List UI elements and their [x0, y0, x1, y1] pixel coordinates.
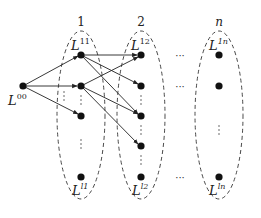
column-header-1: 1: [77, 15, 85, 29]
label-source: L00: [7, 92, 27, 108]
label-col-1-top: L11: [70, 37, 90, 53]
horizontal-ellipsis-row-2: ···: [175, 81, 185, 92]
label-col-1-bottom: Ll1: [71, 182, 88, 198]
layered-graph-diagram: 1 2 n: [0, 0, 261, 218]
label-col-n-bottom: Lln: [208, 182, 225, 198]
column-header-n: n: [215, 15, 223, 29]
edges-source: [23, 56, 78, 114]
label-col-2-top: L12: [130, 37, 150, 53]
node-source: [19, 82, 26, 89]
edges-layer-1-2: [81, 55, 138, 144]
nodes-col-1: [77, 51, 84, 180]
nodes-col-2: [137, 51, 144, 180]
nodes-col-n: [215, 51, 222, 180]
label-col-n-top: L1n: [208, 37, 228, 53]
label-col-2-bottom: Ll2: [131, 182, 148, 198]
vertical-ellipsis: [63, 91, 219, 164]
column-header-2: 2: [137, 15, 145, 29]
horizontal-ellipsis-row-bottom: ···: [175, 172, 185, 183]
horizontal-ellipsis-row-1: ···: [175, 50, 185, 61]
